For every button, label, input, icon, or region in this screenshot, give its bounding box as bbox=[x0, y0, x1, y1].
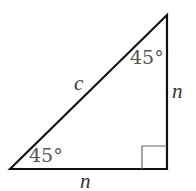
triangle-diagram: 45° 45° c n n bbox=[0, 0, 196, 191]
hypotenuse-label: c bbox=[74, 71, 84, 95]
right-leg-label: n bbox=[172, 79, 183, 103]
bottom-leg-label: n bbox=[80, 169, 91, 191]
angle-label-bottom-left: 45° bbox=[29, 144, 63, 166]
right-angle-marker bbox=[142, 146, 167, 169]
angle-label-top-right: 45° bbox=[130, 46, 164, 68]
